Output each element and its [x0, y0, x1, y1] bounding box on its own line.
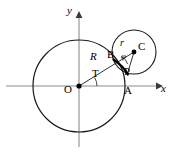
x-axis — [6, 82, 163, 89]
point-label-B: B — [107, 49, 114, 60]
point-dot-O — [76, 83, 81, 88]
point-dot-C — [132, 50, 137, 55]
radius-label-R: R — [90, 51, 97, 62]
point-label-A: A — [124, 85, 132, 96]
point-label-O: O — [64, 84, 72, 95]
point-label-C: C — [138, 41, 145, 52]
figure-canvas — [0, 0, 180, 153]
angle-label-phi: φ — [121, 52, 126, 61]
angle-label-theta: T — [92, 68, 99, 79]
y-axis-arrowhead — [76, 11, 83, 18]
x-axis-label: x — [161, 83, 166, 94]
epicycloid-figure: y x O R r C B P A T φ — [0, 0, 180, 153]
point-label-P: P — [124, 66, 130, 77]
radius-label-r: r — [120, 38, 124, 48]
y-axis-label: y — [67, 5, 72, 16]
y-axis — [76, 11, 83, 147]
